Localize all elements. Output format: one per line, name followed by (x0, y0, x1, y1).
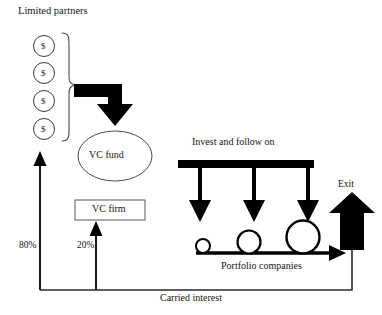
portfolio-companies-label: Portfolio companies (221, 261, 302, 271)
invest-arrow-2-head (243, 200, 265, 222)
invest-arrow-3-head (297, 200, 319, 222)
lp-token-symbol-4: $ (41, 124, 46, 134)
portfolio-company-circle-2 (238, 231, 261, 254)
exit-arrow-shape (329, 192, 375, 250)
invest-follow-on-label: Invest and follow on (192, 137, 275, 147)
exit-label: Exit (338, 180, 354, 190)
invest-arrow-1 (189, 166, 211, 222)
invest-arrow-1-head (189, 200, 211, 222)
lp-distribution-arrow (34, 151, 47, 290)
limited-partners-label: Limited partners (18, 6, 88, 17)
lp-token-symbol-1: $ (41, 41, 46, 51)
exit-arrow (329, 192, 375, 250)
lp-curly-brace (62, 33, 76, 141)
portfolio-company-circle-3 (287, 221, 320, 254)
firm-carry-arrow (90, 221, 103, 290)
diagram-canvas: $ $ $ $ Limited partners VC fund VC firm… (0, 0, 382, 315)
vc-flow-diagram (0, 0, 382, 315)
portfolio-growth-arrow (196, 245, 346, 261)
elbow-arrow-shape (74, 84, 133, 126)
capital-flow-elbow-arrow (74, 84, 133, 126)
invest-arrow-3 (297, 166, 319, 222)
firm-arrow-head (90, 221, 103, 236)
lp-token-symbol-2: $ (41, 68, 46, 78)
vc-firm-label: VC firm (92, 204, 126, 214)
lp-share-label: 80% (19, 241, 36, 251)
portfolio-company-circle-1 (196, 239, 210, 253)
firm-share-label: 20% (77, 241, 94, 251)
carried-interest-label: Carried interest (160, 293, 222, 303)
vc-fund-label: VC fund (89, 150, 124, 160)
lp-token-symbol-3: $ (41, 96, 46, 106)
lp-arrow-head (34, 151, 47, 166)
invest-arrow-2 (243, 166, 265, 222)
